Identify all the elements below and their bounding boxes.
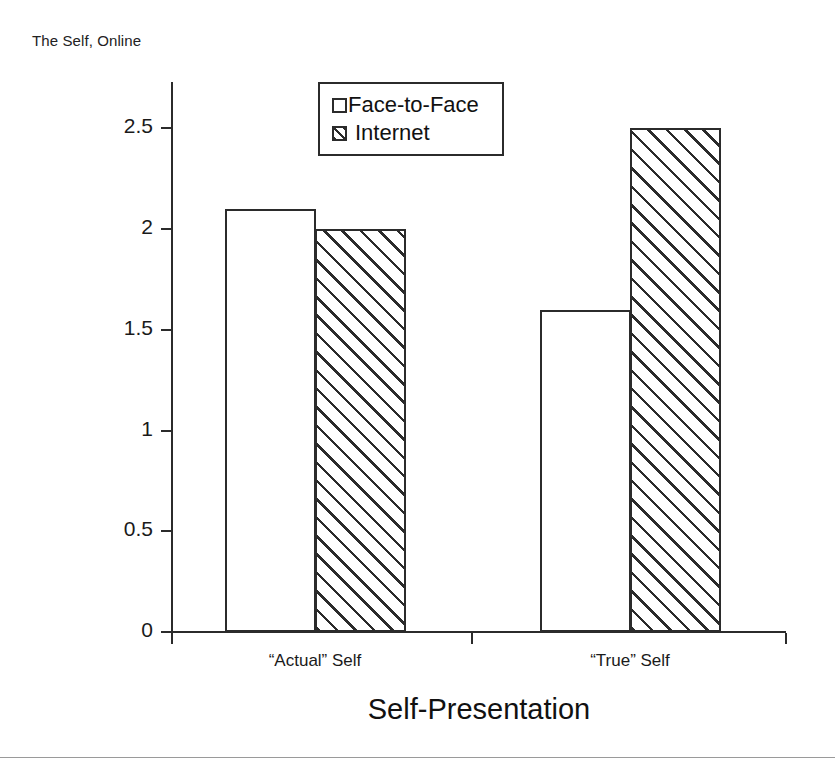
legend-item-internet: Internet — [332, 119, 502, 147]
legend-swatch-internet — [332, 126, 347, 141]
y-axis-tick — [161, 530, 172, 532]
y-axis-tick-label: 2.5 — [90, 114, 153, 138]
bottom-divider — [0, 757, 835, 758]
legend-label-internet: Internet — [355, 122, 430, 144]
bar-internet-group-1 — [315, 229, 406, 632]
y-axis-tick-label: 2 — [90, 215, 153, 239]
y-axis-tick-label: 0.5 — [90, 517, 153, 541]
bar-internet-group-2 — [630, 128, 721, 632]
figure: The Self, Online 00.511.522.5 “Actual” S… — [0, 0, 835, 772]
y-axis-tick-label: 1 — [90, 417, 153, 441]
x-axis-title: Self-Presentation — [172, 693, 786, 726]
legend-swatch-face-to-face — [332, 98, 347, 113]
y-axis-tick — [161, 228, 172, 230]
y-axis-tick — [161, 127, 172, 129]
x-axis-tick — [785, 633, 787, 644]
x-axis-tick — [471, 633, 473, 644]
bar-face-to-face-group-2 — [540, 310, 631, 632]
y-axis-tick-label: 0 — [90, 618, 153, 642]
y-axis-line — [171, 82, 173, 633]
x-axis-category-label: “True” Self — [510, 651, 750, 671]
y-axis-tick — [161, 430, 172, 432]
legend: Face-to-Face Internet — [318, 82, 504, 156]
page-header-caption: The Self, Online — [32, 32, 141, 49]
legend-item-face-to-face: Face-to-Face — [332, 91, 502, 119]
legend-label-face-to-face: Face-to-Face — [348, 94, 479, 116]
x-axis-category-label: “Actual” Self — [195, 651, 435, 671]
y-axis-tick-label: 1.5 — [90, 316, 153, 340]
x-axis-tick — [171, 633, 173, 644]
bar-face-to-face-group-1 — [225, 209, 316, 632]
y-axis-tick — [161, 329, 172, 331]
